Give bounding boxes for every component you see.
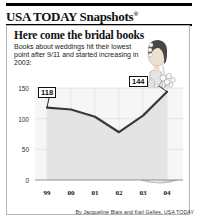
chart-panel: Here come the bridal books Books about w… <box>6 25 190 215</box>
x-tick-03: 03 <box>140 189 147 197</box>
x-tick-99: 99 <box>44 189 51 197</box>
snapshot-graphic: USA TODAY Snapshots® Here come the brida… <box>0 0 198 222</box>
y-tick-50: 50 <box>9 146 29 153</box>
subtitle-text: Books about weddings hit their lowest po… <box>14 43 139 68</box>
x-tick-04: 04 <box>164 189 171 197</box>
y-tick-100: 100 <box>9 115 29 122</box>
byline-text: By Jacqueline Blais and Karl Gelles, USA… <box>76 209 195 215</box>
data-label-144: 144 <box>129 76 148 87</box>
y-tick-0: 0 <box>9 177 29 184</box>
masthead: USA TODAY Snapshots® <box>6 3 192 26</box>
masthead-top-rule <box>6 3 192 6</box>
brand-name: USA TODAY Snapshots <box>6 9 133 24</box>
data-label-118: 118 <box>38 87 56 98</box>
x-tick-02: 02 <box>116 189 123 197</box>
registered-mark: ® <box>133 10 138 18</box>
line-chart <box>9 84 189 196</box>
y-tick-150: 150 <box>9 85 29 92</box>
x-tick-01: 01 <box>92 189 99 197</box>
brand-title: USA TODAY Snapshots® <box>6 7 192 24</box>
x-tick-00: 00 <box>68 189 75 197</box>
